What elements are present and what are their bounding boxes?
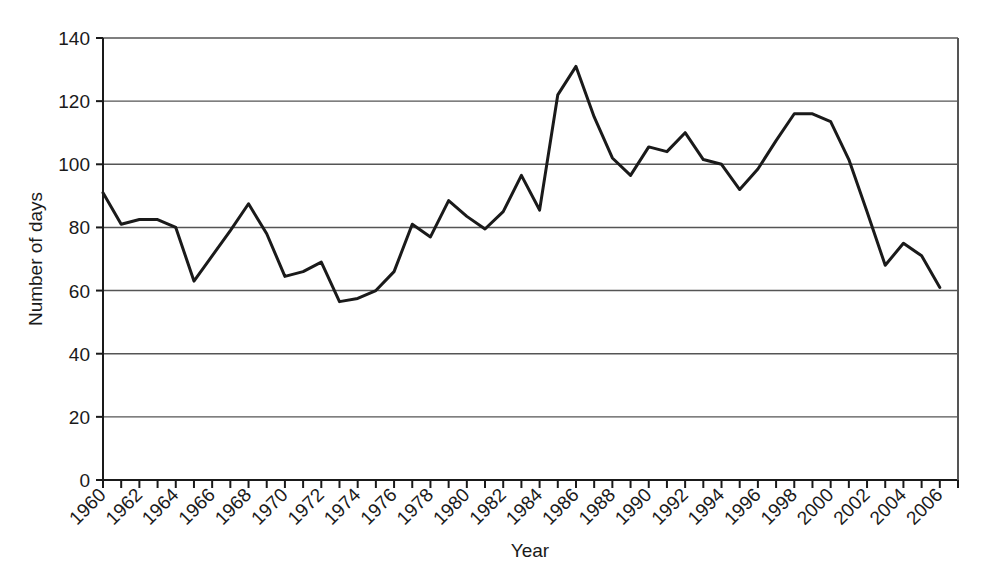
y-tick-label: 40	[69, 344, 90, 365]
x-tick-label: 1970	[247, 484, 292, 529]
y-axis-title: Number of days	[25, 192, 46, 326]
x-tick-label: 2006	[902, 484, 947, 529]
x-tick-label: 1992	[647, 484, 692, 529]
x-tick-label: 1988	[574, 484, 619, 529]
y-tick-label: 140	[58, 28, 90, 49]
x-tick-label: 1966	[174, 484, 219, 529]
x-tick-label: 1986	[538, 484, 583, 529]
x-axis: 1960196219641966196819701972197419761978…	[65, 38, 958, 529]
x-tick-label: 1962	[101, 484, 146, 529]
y-tick-label: 60	[69, 281, 90, 302]
x-tick-label: 1978	[393, 484, 438, 529]
x-tick-label: 1976	[356, 484, 401, 529]
x-tick-label: 1996	[720, 484, 765, 529]
x-tick-label: 2000	[793, 484, 838, 529]
chart-canvas: 140120100806040200 196019621964196619681…	[0, 0, 995, 584]
x-tick-label: 1994	[684, 484, 729, 529]
y-tick-label: 0	[79, 470, 90, 491]
y-tick-label: 100	[58, 154, 90, 175]
x-tick-label: 1998	[756, 484, 801, 529]
x-tick-label: 1972	[283, 484, 328, 529]
x-axis-title: Year	[511, 540, 550, 561]
y-tick-label: 120	[58, 91, 90, 112]
y-tick-label: 20	[69, 407, 90, 428]
x-axis-tick-labels: 1960196219641966196819701972197419761978…	[65, 484, 947, 529]
x-tick-label: 1980	[429, 484, 474, 529]
y-axis-tick-labels: 140120100806040200	[58, 28, 90, 491]
line-chart: 140120100806040200 196019621964196619681…	[0, 0, 995, 584]
y-axis-ticks	[96, 38, 103, 480]
x-tick-label: 1968	[211, 484, 256, 529]
x-tick-label: 2004	[866, 484, 911, 529]
y-tick-label: 80	[69, 217, 90, 238]
x-tick-label: 1964	[138, 484, 183, 529]
x-tick-label: 1984	[502, 484, 547, 529]
y-axis: 140120100806040200	[58, 28, 103, 491]
x-tick-label: 2002	[829, 484, 874, 529]
x-tick-label: 1974	[320, 484, 365, 529]
x-tick-label: 1960	[65, 484, 110, 529]
x-tick-label: 1990	[611, 484, 656, 529]
x-tick-label: 1982	[465, 484, 510, 529]
